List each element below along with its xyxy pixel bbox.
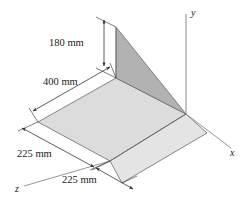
z-axis-label: z: [14, 183, 19, 194]
dim-180-label: 180 mm: [49, 37, 84, 48]
dim-400-label: 400 mm: [43, 76, 78, 87]
dim-180-extension-top: [96, 17, 116, 27]
isometric-diagram: y x z 180 mm 400 mm 225 mm 225 mm: [0, 0, 241, 202]
dim-225a-label: 225 mm: [17, 148, 52, 159]
y-axis-label: y: [190, 7, 196, 18]
dim-225b-label: 225 mm: [62, 174, 97, 185]
x-axis-label: x: [229, 147, 235, 158]
figure-container: y x z 180 mm 400 mm 225 mm 225 mm: [0, 0, 241, 202]
dim-225a-extension-start: [18, 122, 38, 131]
dim-400-extension-lower: [29, 108, 38, 122]
